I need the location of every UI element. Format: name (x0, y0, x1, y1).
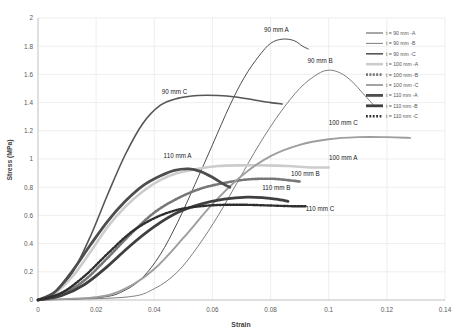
annotation-label: 90 mm B (307, 57, 332, 64)
y-tick-label: 0.2 (24, 268, 33, 275)
annotation-label: 90 mm C (162, 88, 188, 95)
x-tick-label: 0.1 (324, 306, 333, 313)
chart-figure: 00.20.40.60.811.21.41.61.82 00.020.040.0… (0, 0, 467, 336)
x-axis-title: Strain (231, 321, 250, 328)
x-tick-label: 0.12 (381, 306, 394, 313)
x-tick-label: 0.06 (206, 306, 219, 313)
annotation-label: 110 mm C (306, 205, 335, 212)
legend-item-label: t = 90 mm -A (386, 30, 416, 36)
legend-item-label: t = 100 mm -C (386, 82, 419, 88)
y-tick-label: 0.4 (24, 240, 33, 247)
annotation-label: 90 mm A (264, 26, 290, 33)
y-tick-label: 1.2 (24, 127, 33, 134)
annotation-label: 110 mm B (262, 184, 290, 191)
x-tick-label: 0.04 (148, 306, 161, 313)
legend-item-label: t = 90 mm -B (386, 40, 416, 46)
y-tick-label: 1.6 (24, 71, 33, 78)
annotation-label: 100 mm B (291, 170, 320, 177)
y-tick-label: 1 (29, 155, 33, 162)
y-tick-label: 0 (29, 296, 33, 303)
legend-item-label: t = 110 mm -B (386, 103, 418, 109)
legend-item-label: t = 110 mm -A (386, 92, 418, 98)
x-tick-label: 0 (36, 306, 40, 313)
legend: t = 90 mm -At = 90 mm -Bt = 90 mm -Ct = … (366, 30, 419, 119)
legend-item-label: t = 110 mm -C (386, 113, 418, 119)
legend-item-label: t = 90 mm -C (386, 51, 416, 57)
y-tick-label: 0.8 (24, 184, 33, 191)
y-tick-label: 0.6 (24, 212, 33, 219)
annotation-label: 100 mm C (329, 119, 358, 126)
legend-item-label: t = 100 mm -B (386, 72, 419, 78)
x-tick-label: 0.14 (439, 306, 452, 313)
y-tick-label: 2 (29, 14, 33, 21)
y-tick-label: 1.8 (24, 43, 33, 50)
x-tick-label: 0.08 (264, 306, 277, 313)
x-tick-label: 0.02 (90, 306, 103, 313)
annotation-label: 100 mm A (329, 154, 358, 161)
stress-strain-chart: 00.20.40.60.811.21.41.61.82 00.020.040.0… (0, 0, 467, 336)
y-tick-label: 1.4 (24, 99, 33, 106)
legend-item-label: t = 100 mm -A (386, 61, 419, 67)
annotation-label: 110 mm A (164, 152, 193, 159)
y-axis-title: Stress (MPa) (6, 139, 14, 180)
